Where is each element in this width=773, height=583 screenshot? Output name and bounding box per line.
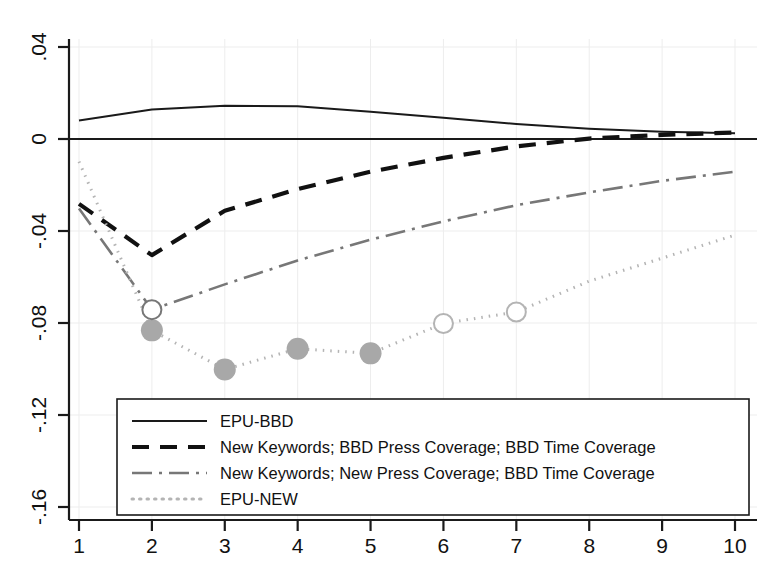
series-line-3 xyxy=(79,162,735,370)
y-axis-tick-label: -.04 xyxy=(27,213,50,250)
x-axis-tick-label: 9 xyxy=(656,534,668,557)
marker-open-circle xyxy=(507,302,526,321)
legend-label-2: New Keywords; New Press Coverage; BBD Ti… xyxy=(220,464,655,482)
y-axis-tick-label: -.08 xyxy=(27,305,50,341)
x-axis-tick-label: 10 xyxy=(723,534,746,557)
x-axis-tick-label: 3 xyxy=(219,534,231,557)
marker-open-circle xyxy=(434,314,453,333)
series-line-1 xyxy=(79,133,735,256)
x-axis-tick-label: 8 xyxy=(583,534,595,557)
marker-filled-circle xyxy=(141,319,163,341)
legend-label-1: New Keywords; BBD Press Coverage; BBD Ti… xyxy=(220,438,656,456)
x-axis-tick-label: 2 xyxy=(146,534,158,557)
impulse-response-chart: .040-.04-.08-.12-.16 12345678910 EPU-BBD… xyxy=(0,0,773,583)
marker-filled-circle xyxy=(360,342,382,364)
x-axis-tick-label: 6 xyxy=(438,534,450,557)
marker-open-circle xyxy=(142,300,161,319)
y-axis-tick-label: -.16 xyxy=(27,489,50,525)
x-axis-tick-label: 7 xyxy=(510,534,522,557)
chart-legend: EPU-BBDNew Keywords; BBD Press Coverage;… xyxy=(117,399,749,515)
marker-filled-circle xyxy=(214,358,236,380)
y-axis-tick-label: .04 xyxy=(27,32,50,62)
y-axis-tick-label: -.12 xyxy=(27,397,50,433)
y-axis-tick-labels: .040-.04-.08-.12-.16 xyxy=(27,32,50,525)
x-axis-tick-label: 1 xyxy=(73,534,85,557)
legend-label-3: EPU-NEW xyxy=(220,490,298,508)
legend-box xyxy=(117,399,749,515)
x-axis-tick-label: 5 xyxy=(365,534,377,557)
data-point-markers xyxy=(141,300,526,380)
chart-figure: .040-.04-.08-.12-.16 12345678910 EPU-BBD… xyxy=(0,0,773,583)
data-series xyxy=(79,106,735,370)
y-axis-tick-label: 0 xyxy=(27,133,50,145)
x-axis-tick-label: 4 xyxy=(292,534,304,557)
x-axis-tick-labels: 12345678910 xyxy=(73,534,747,557)
marker-filled-circle xyxy=(287,338,309,360)
series-line-0 xyxy=(79,106,735,134)
legend-label-0: EPU-BBD xyxy=(220,412,293,430)
